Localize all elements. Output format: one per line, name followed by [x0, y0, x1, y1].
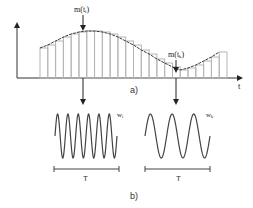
period-label-left: T	[83, 174, 88, 183]
marker-left-label: m(ti)	[74, 5, 90, 14]
period-label-right: T	[176, 174, 181, 183]
period-bar-left	[54, 166, 119, 172]
sample-bar	[211, 57, 219, 78]
sample-bar	[118, 37, 126, 78]
marker-right-label: m(tk)	[168, 50, 185, 59]
sample-bar	[110, 34, 118, 78]
sample-bar	[141, 50, 149, 78]
panel-b: wi wk T T b)	[54, 111, 214, 201]
wave-right-label: wk	[206, 111, 214, 119]
wave-left-label: wi	[117, 111, 124, 119]
sample-bar	[87, 31, 95, 78]
sample-bar	[204, 61, 212, 78]
diagram-canvas: m(ti) m(tk) t a) wi wk T	[0, 0, 253, 208]
sample-bar	[95, 31, 103, 78]
sample-bar	[40, 48, 48, 78]
sample-bar	[102, 32, 110, 78]
period-bar-right	[145, 166, 210, 172]
sample-bar	[134, 45, 142, 78]
sample-bar	[63, 37, 71, 78]
sample-bar	[180, 70, 188, 78]
panel-b-label: b)	[130, 191, 138, 201]
panel-a: m(ti) m(tk) t a)	[17, 5, 241, 102]
sample-bar	[48, 45, 56, 78]
sample-bar	[149, 54, 157, 78]
sample-bar	[71, 34, 79, 78]
sample-bar	[126, 41, 134, 78]
sample-bar	[196, 65, 204, 78]
sample-bars	[40, 31, 227, 78]
wave-high-frequency	[55, 114, 117, 158]
x-axis-label: t	[238, 82, 241, 91]
sample-bar	[188, 68, 196, 78]
wave-low-frequency	[145, 114, 210, 158]
sample-bar	[79, 32, 87, 78]
panel-a-label: a)	[130, 85, 138, 95]
sample-bar	[56, 41, 64, 78]
sample-bar	[219, 52, 227, 78]
